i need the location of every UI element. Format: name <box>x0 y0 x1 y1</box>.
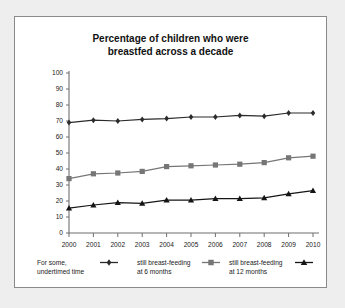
y-axis-tick-label: 70 <box>56 117 64 124</box>
legend-sample-marker <box>208 260 213 265</box>
legend-label-line-2: at 12 months <box>229 268 268 275</box>
data-point-marker <box>140 169 145 174</box>
legend-item[interactable]: still breast-feedingat 12 months <box>229 259 313 275</box>
chart-title: Percentage of children who were breastfe… <box>92 33 249 57</box>
data-point-marker <box>91 171 96 176</box>
legend-sample-marker <box>107 259 112 265</box>
data-point-marker <box>286 155 291 160</box>
data-point-marker <box>286 110 291 116</box>
data-point-marker <box>262 113 267 119</box>
x-axis: 2000200120022003200420052006200720082009… <box>62 233 321 248</box>
data-point-marker <box>311 110 316 116</box>
data-point-marker <box>66 176 71 181</box>
legend-label-line-2: at 6 months <box>137 268 172 275</box>
y-axis-tick-label: 0 <box>59 229 63 236</box>
data-series <box>66 154 315 182</box>
data-point-marker <box>91 117 96 123</box>
data-series <box>67 110 316 126</box>
chart-legend: For some,undertimed timestill breast-fee… <box>37 259 313 275</box>
y-axis-tick-label: 90 <box>56 85 64 92</box>
y-axis: 0102030405060708090100 <box>52 69 69 236</box>
data-point-marker <box>116 118 121 124</box>
x-axis-tick-label: 2005 <box>184 241 199 248</box>
legend-label-line-2: undertimed time <box>37 268 85 275</box>
chart-title-line-2: breastfed across a decade <box>108 46 234 57</box>
y-axis-tick-label: 30 <box>56 181 64 188</box>
x-axis-tick-label: 2002 <box>110 241 125 248</box>
data-series-group <box>66 110 316 211</box>
data-point-marker <box>238 112 243 118</box>
data-point-marker <box>310 154 315 159</box>
y-axis-tick-label: 10 <box>56 213 64 220</box>
data-point-marker <box>213 114 218 120</box>
y-axis-tick-label: 60 <box>56 133 64 140</box>
chart-figure-frame: Percentage of children who were breastfe… <box>14 16 327 288</box>
x-axis-tick-label: 2007 <box>232 241 247 248</box>
data-point-marker <box>164 164 169 169</box>
chart-title-line-1: Percentage of children who were <box>92 33 249 44</box>
data-point-marker <box>262 160 267 165</box>
data-series <box>66 188 316 211</box>
x-axis-tick-label: 2008 <box>257 241 272 248</box>
legend-label-line-1: still breast-feeding <box>137 259 191 267</box>
data-point-marker <box>115 170 120 175</box>
x-axis-tick-label: 2010 <box>306 241 321 248</box>
legend-label-line-1: still breast-feeding <box>229 259 283 267</box>
x-axis-tick-label: 2003 <box>135 241 150 248</box>
data-point-marker <box>189 114 194 120</box>
y-axis-tick-label: 20 <box>56 197 64 204</box>
data-point-marker <box>237 162 242 167</box>
legend-label-line-1: For some, <box>37 259 67 266</box>
data-point-marker <box>140 116 145 122</box>
x-axis-tick-label: 2006 <box>208 241 223 248</box>
y-axis-tick-label: 80 <box>56 101 64 108</box>
data-point-marker <box>213 162 218 167</box>
data-point-marker <box>310 188 316 194</box>
line-chart: Percentage of children who were breastfe… <box>15 17 326 287</box>
x-axis-tick-label: 2001 <box>86 241 101 248</box>
x-axis-tick-label: 2004 <box>159 241 174 248</box>
data-point-marker <box>188 163 193 168</box>
legend-item[interactable]: still breast-feedingat 6 months <box>137 259 220 275</box>
x-axis-tick-label: 2000 <box>62 241 77 248</box>
data-point-marker <box>164 116 169 122</box>
y-axis-tick-label: 40 <box>56 165 64 172</box>
y-axis-tick-label: 50 <box>56 149 64 156</box>
y-axis-tick-label: 100 <box>52 69 63 76</box>
legend-item[interactable]: For some,undertimed time <box>37 259 118 275</box>
x-axis-tick-label: 2009 <box>281 241 296 248</box>
